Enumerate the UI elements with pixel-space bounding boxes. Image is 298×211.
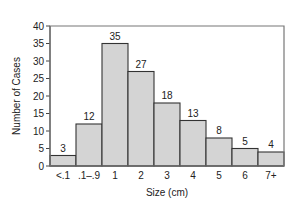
bar-value-label: 35 (109, 31, 121, 42)
y-tick-label: 35 (33, 38, 45, 49)
y-tick-label: 25 (33, 73, 45, 84)
y-tick-label: 15 (33, 108, 45, 119)
y-tick-label: 40 (33, 21, 45, 32)
x-tick-label: 1 (112, 170, 118, 181)
bars-group (50, 44, 284, 167)
x-tick-label: 4 (190, 170, 196, 181)
y-tick-label: 5 (38, 143, 44, 154)
bar-5 (180, 121, 206, 167)
x-tick-label: 7+ (265, 170, 277, 181)
bar-0 (50, 156, 76, 167)
bar-value-label: 8 (216, 125, 222, 136)
x-tick-label: 2 (138, 170, 144, 181)
bar-7 (232, 149, 258, 167)
bar-6 (206, 138, 232, 166)
bar-3 (128, 72, 154, 167)
x-tick-label: .1–.9 (78, 170, 101, 181)
x-axis: <.1.1–.91234567+ (50, 166, 284, 181)
bar-value-label: 12 (83, 111, 95, 122)
y-tick-label: 0 (38, 161, 44, 172)
y-tick-label: 30 (33, 56, 45, 67)
bar-2 (102, 44, 128, 167)
y-tick-label: 10 (33, 126, 45, 137)
bar-4 (154, 103, 180, 166)
bar-value-label: 5 (242, 136, 248, 147)
x-axis-title: Size (cm) (146, 187, 188, 198)
y-axis-title: Number of Cases (11, 57, 22, 135)
bar-value-label: 3 (60, 143, 66, 154)
y-axis: 0510152025303540 (33, 21, 50, 172)
bar-value-label: 13 (187, 108, 199, 119)
y-tick-label: 20 (33, 91, 45, 102)
x-tick-label: <.1 (56, 170, 71, 181)
bar-value-label: 27 (135, 59, 147, 70)
x-tick-label: 3 (164, 170, 170, 181)
bar-value-label: 18 (161, 90, 173, 101)
x-tick-label: 5 (216, 170, 222, 181)
x-tick-label: 6 (242, 170, 248, 181)
histogram-chart: 31235271813854 0510152025303540 <.1.1–.9… (0, 0, 298, 211)
bar-value-label: 4 (268, 139, 274, 150)
bar-1 (76, 124, 102, 166)
bar-8 (258, 152, 284, 166)
